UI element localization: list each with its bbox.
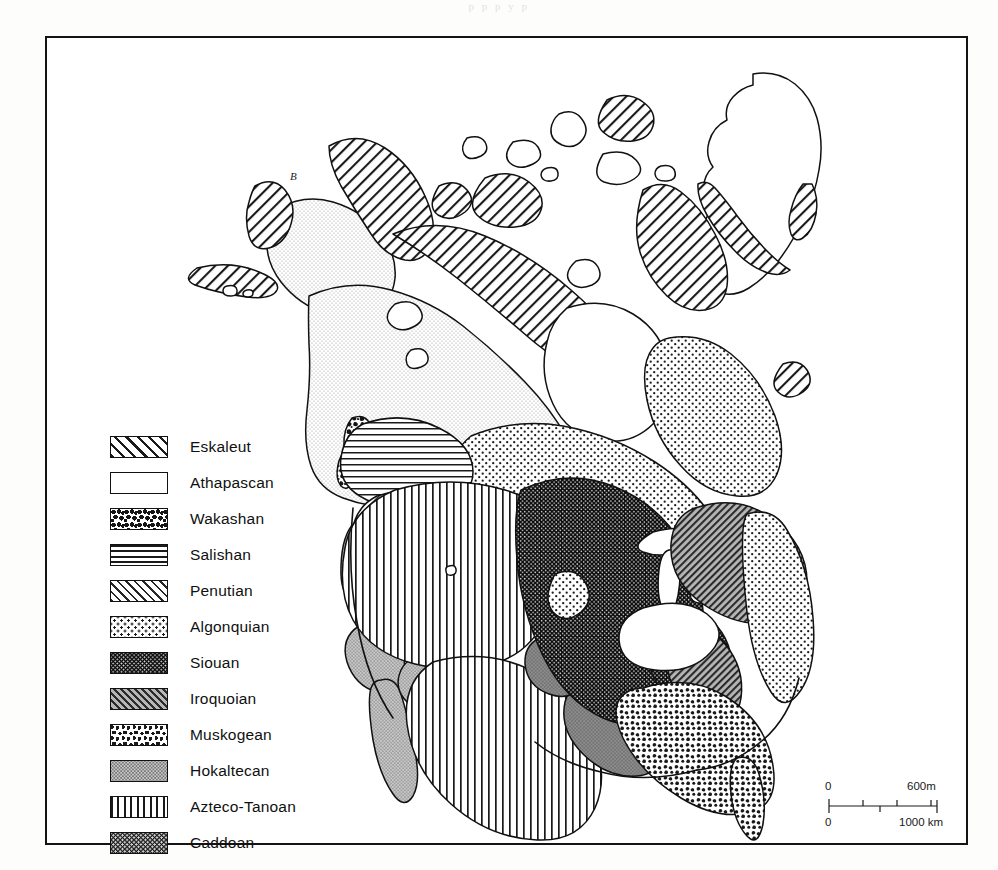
legend-swatch-muskogean: [110, 724, 168, 746]
legend-row[interactable]: Algonquian: [110, 609, 296, 645]
legend-label: Penutian: [190, 582, 253, 600]
legend-swatch-iroquoian: [110, 688, 168, 710]
scale-miles-max: 600m: [907, 780, 936, 792]
island-melville: [507, 140, 541, 167]
legend-swatch-eskaleut: [110, 436, 168, 458]
lake-great-bear: [387, 302, 422, 330]
region-algonquian-east-coast: [743, 512, 814, 703]
island-ellesmere: [598, 95, 654, 141]
legend-label: Azteco-Tanoan: [190, 798, 296, 816]
legend-row[interactable]: Azteco-Tanoan: [110, 789, 296, 825]
legend-row[interactable]: Hokaltecan: [110, 753, 296, 789]
legend-row[interactable]: Athapascan: [110, 465, 296, 501]
legend-label: Wakashan: [190, 510, 264, 528]
island-banks: [432, 183, 471, 219]
island-southampton: [568, 259, 600, 287]
legend-label: Eskaleut: [190, 438, 251, 456]
island-prince-patrick: [463, 137, 487, 159]
legend-row[interactable]: Iroquoian: [110, 681, 296, 717]
legend-swatch-siouan: [110, 652, 168, 674]
legend-label: Algonquian: [190, 618, 270, 636]
map-annotation-b: B: [290, 170, 297, 182]
legend-row[interactable]: Salishan: [110, 537, 296, 573]
map-frame: B Eskaleut Athapascan Wakashan Salishan …: [45, 36, 968, 845]
legend-row[interactable]: Muskogean: [110, 717, 296, 753]
legend-swatch-algonquian: [110, 616, 168, 638]
legend-row[interactable]: Siouan: [110, 645, 296, 681]
legend-label: Caddoan: [190, 834, 254, 852]
map-legend: Eskaleut Athapascan Wakashan Salishan Pe…: [110, 429, 296, 861]
legend-label: Athapascan: [190, 474, 274, 492]
legend-swatch-azteco-tanoan: [110, 796, 168, 818]
map-scale-bar: 0 600m 0 1000 km: [825, 780, 957, 836]
legend-row[interactable]: Caddoan: [110, 825, 296, 861]
legend-swatch-caddoan: [110, 832, 168, 854]
island-aleutian-2: [243, 290, 253, 297]
legend-swatch-salishan: [110, 544, 168, 566]
island-newfoundland: [774, 362, 810, 397]
island-small-arctic-1: [655, 166, 675, 182]
legend-swatch-athapascan: [110, 472, 168, 494]
legend-label: Siouan: [190, 654, 239, 672]
island-devon: [597, 152, 641, 184]
scale-bar-graphic: [825, 794, 957, 824]
lake-great-slave: [406, 349, 428, 369]
legend-swatch-wakashan: [110, 508, 168, 530]
island-axel-heiberg: [551, 112, 586, 147]
legend-label: Hokaltecan: [190, 762, 270, 780]
island-small-arctic-2: [541, 168, 558, 182]
island-aleutian-1: [223, 286, 237, 297]
legend-swatch-penutian: [110, 580, 168, 602]
legend-label: Muskogean: [190, 726, 272, 744]
legend-row[interactable]: Wakashan: [110, 501, 296, 537]
legend-swatch-hokaltecan: [110, 760, 168, 782]
lake-utah-small: [446, 565, 456, 575]
legend-row[interactable]: Penutian: [110, 573, 296, 609]
scale-miles-zero: 0: [825, 780, 831, 792]
legend-label: Salishan: [190, 546, 251, 564]
scan-bleed-through: p p p y p: [0, 0, 998, 22]
legend-row[interactable]: Eskaleut: [110, 429, 296, 465]
legend-label: Iroquoian: [190, 690, 256, 708]
island-victoria: [473, 174, 543, 227]
